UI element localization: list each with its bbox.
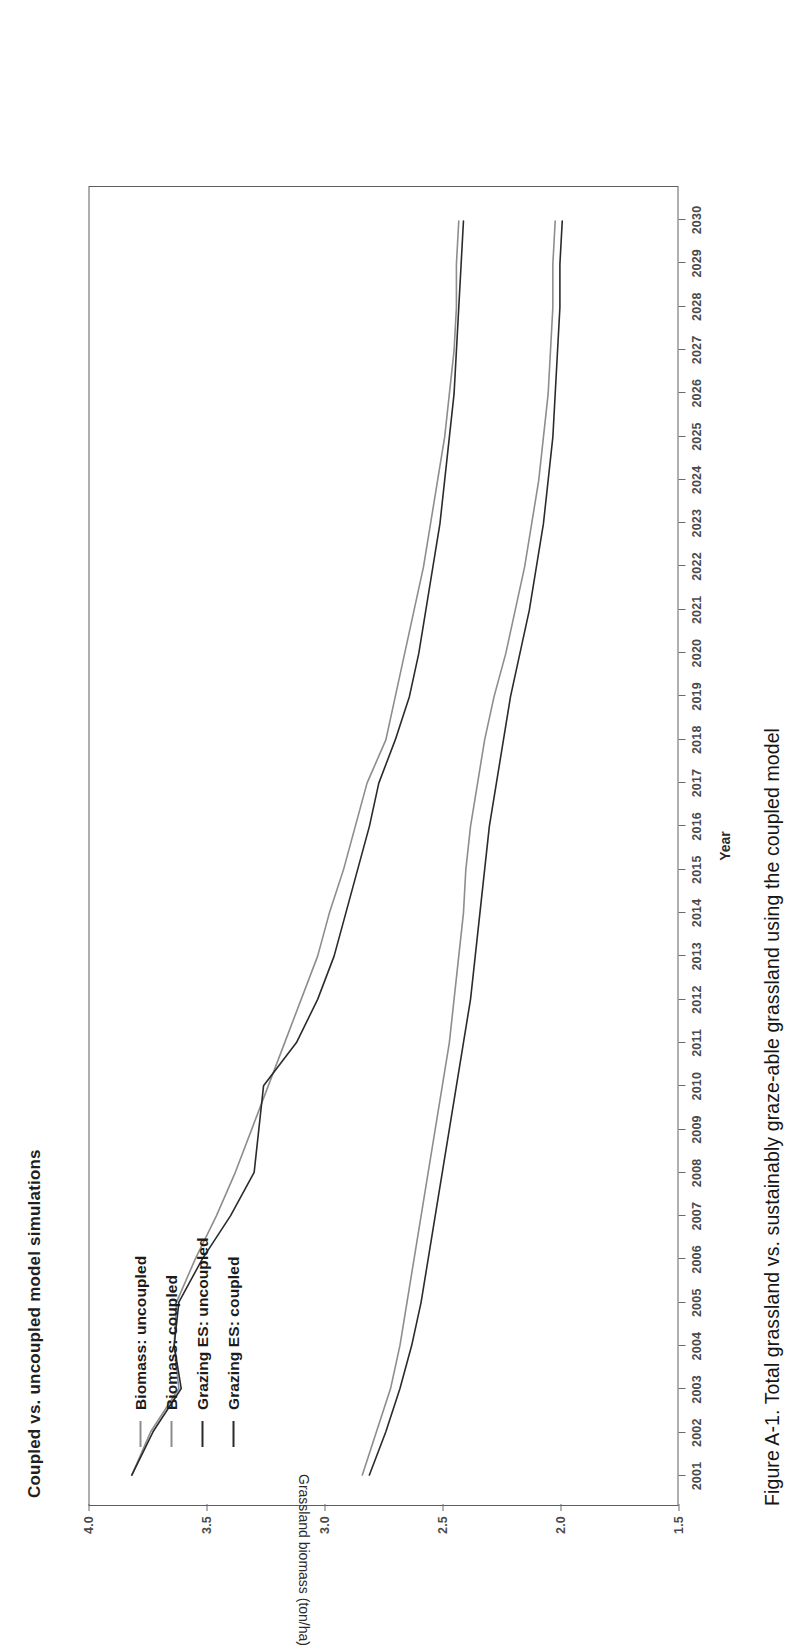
x-axis-tick-label: 2029 (689, 249, 703, 278)
x-axis-tick-label: 2026 (689, 379, 703, 408)
legend-item: Biomass: uncoupled (131, 1237, 149, 1447)
plot-area: Biomass: uncoupledBiomass: coupledGrazin… (88, 186, 678, 1506)
y-axis-tick (560, 1504, 561, 1511)
x-axis-tick (678, 1388, 685, 1389)
x-axis-tick (678, 522, 685, 523)
y-axis: 4.03.53.02.52.01.5 (88, 1504, 678, 1576)
legend-item-label: Biomass: coupled (162, 1275, 180, 1410)
x-axis-tick-label: 2030 (689, 206, 703, 235)
x-axis-tick (678, 739, 685, 740)
legend-line-icon (170, 1421, 172, 1447)
x-axis-tick-label: 2008 (689, 1159, 703, 1188)
y-axis-tick-label: 3.0 (317, 1516, 331, 1534)
x-axis-tick (678, 219, 685, 220)
y-axis-tick (678, 1504, 679, 1511)
x-axis-tick-label: 2027 (689, 336, 703, 365)
legend-line-icon (139, 1421, 141, 1447)
chart-title: Coupled vs. uncoupled model simulations (24, 0, 44, 1594)
x-axis-tick-label: 2020 (689, 639, 703, 668)
x-axis-tick-label: 2002 (689, 1418, 703, 1447)
y-axis-tick-label: 3.5 (199, 1516, 213, 1534)
x-axis-tick-label: 2013 (689, 942, 703, 971)
y-axis-tick (442, 1504, 443, 1511)
y-axis-tick-label: 2.5 (435, 1516, 449, 1534)
x-axis: 2001200220032004200520062007200820092010… (678, 186, 748, 1506)
x-axis-tick (678, 869, 685, 870)
x-axis-tick-label: 2018 (689, 725, 703, 754)
x-axis-tick (678, 436, 685, 437)
x-axis-tick (678, 1258, 685, 1259)
x-axis-tick-label: 2007 (689, 1202, 703, 1231)
x-axis-tick (678, 825, 685, 826)
y-axis-title: Grassland biomass (ton/ha) (295, 1300, 311, 1649)
x-axis-tick-label: 2006 (689, 1245, 703, 1274)
x-axis-tick-label: 2012 (689, 985, 703, 1014)
x-axis-tick (678, 306, 685, 307)
x-axis-tick-label: 2016 (689, 812, 703, 841)
x-axis-tick (678, 1129, 685, 1130)
x-axis-tick (678, 652, 685, 653)
y-axis-tick-label: 4.0 (81, 1516, 95, 1534)
x-axis-tick-label: 2022 (689, 552, 703, 581)
x-axis-tick-label: 2010 (689, 1072, 703, 1101)
x-axis-tick (678, 392, 685, 393)
y-axis-tick (206, 1504, 207, 1511)
x-axis-tick (678, 955, 685, 956)
y-axis-tick (324, 1504, 325, 1511)
x-axis-title: Year (716, 186, 732, 1506)
series-line (362, 221, 555, 1475)
x-axis-tick (678, 782, 685, 783)
x-axis-tick (678, 1475, 685, 1476)
legend-line-icon (201, 1421, 203, 1447)
legend-item: Grazing ES: coupled (224, 1237, 242, 1447)
x-axis-tick (678, 479, 685, 480)
x-axis-tick-label: 2001 (689, 1462, 703, 1491)
x-axis-tick (678, 1042, 685, 1043)
x-axis-tick (678, 912, 685, 913)
x-axis-tick-label: 2023 (689, 509, 703, 538)
legend-item: Grazing ES: uncoupled (193, 1237, 211, 1447)
legend-item-label: Biomass: uncoupled (131, 1256, 149, 1410)
x-axis-tick-label: 2011 (689, 1029, 703, 1057)
x-axis-tick (678, 1345, 685, 1346)
x-axis-tick-label: 2009 (689, 1115, 703, 1144)
x-axis-tick-label: 2021 (689, 595, 703, 624)
x-axis-tick-label: 2025 (689, 422, 703, 451)
series-line (369, 221, 562, 1475)
x-axis-tick (678, 609, 685, 610)
x-axis-tick-label: 2017 (689, 769, 703, 798)
x-axis-tick-label: 2015 (689, 855, 703, 884)
x-axis-tick (678, 1432, 685, 1433)
x-axis-tick (678, 349, 685, 350)
x-axis-tick (678, 565, 685, 566)
x-axis-tick-label: 2014 (689, 899, 703, 928)
y-axis-tick (88, 1504, 89, 1511)
x-axis-tick (678, 1172, 685, 1173)
x-axis-tick (678, 262, 685, 263)
legend-item-label: Grazing ES: uncoupled (193, 1237, 211, 1410)
x-axis-tick (678, 1215, 685, 1216)
x-axis-tick-label: 2004 (689, 1332, 703, 1361)
legend-item-label: Grazing ES: coupled (224, 1257, 242, 1410)
legend-item: Biomass: coupled (162, 1237, 180, 1447)
x-axis-tick (678, 1302, 685, 1303)
x-axis-tick (678, 1085, 685, 1086)
figure-caption: Figure A-1. Total grassland vs. sustaina… (760, 86, 783, 1506)
x-axis-tick (678, 695, 685, 696)
x-axis-tick-label: 2028 (689, 292, 703, 321)
y-axis-tick-label: 2.0 (553, 1516, 567, 1534)
legend-line-icon (232, 1421, 234, 1447)
y-axis-tick-label: 1.5 (671, 1516, 685, 1534)
legend: Biomass: uncoupledBiomass: coupledGrazin… (131, 1237, 242, 1447)
x-axis-tick-label: 2024 (689, 466, 703, 495)
x-axis-tick (678, 999, 685, 1000)
x-axis-tick-label: 2003 (689, 1375, 703, 1404)
x-axis-tick-label: 2005 (689, 1288, 703, 1317)
x-axis-tick-label: 2019 (689, 682, 703, 711)
